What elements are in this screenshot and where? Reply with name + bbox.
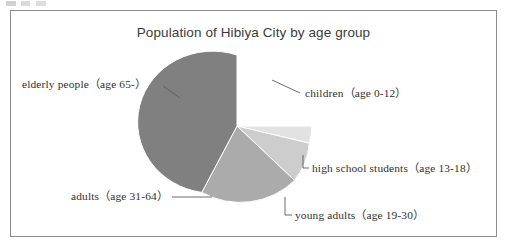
pie-slice-children: [237, 55, 312, 126]
pie-chart: [0, 0, 507, 249]
pie-label-young-adults: young adults（age 19-30）: [295, 209, 424, 222]
pie-label-high-school-students: high school students（age 13-18）: [312, 162, 477, 175]
pie-slices: [138, 51, 312, 202]
pie-label-elderly-people: elderly people（age 65-）: [22, 78, 146, 91]
pie-label-adults: adults（age 31-64）: [71, 190, 168, 203]
leader-line-young-adults: [285, 197, 292, 215]
pie-label-children: children（age 0-12）: [305, 87, 407, 100]
